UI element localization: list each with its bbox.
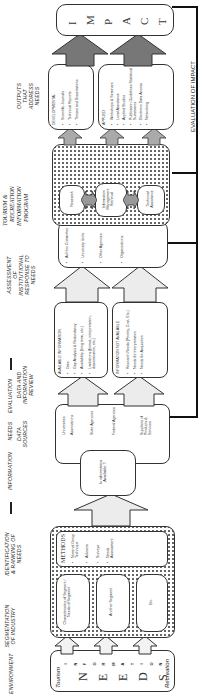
needs-big-letters: NEEDS [73,672,173,681]
feedback-line [196,8,198,418]
arrows-to-data-review [58,374,168,408]
feedback-line-to-program [172,172,197,174]
header-data-sources: DATA SOURCES [16,418,28,450]
double-arrow-2 [123,189,139,211]
impact-letters: IMPACT [63,15,171,25]
segment-box-1: Characteristics of Segment / Needs of Se… [56,574,90,632]
arrows-to-impact [50,32,170,68]
methods-box: METHODS Nominal Group Technique Advisors… [56,531,168,567]
information-vertical-letters: INFORMATION [61,659,166,669]
program-container: Research Information Management Retrieva… [52,144,170,226]
header-data-review: DATA AND INFORMATION REVIEW [16,366,34,404]
feedback-line-to-assessment [168,242,197,244]
applied-box: APPLIED Workshops & Seminars Local Assis… [98,64,174,130]
segment-box-2: Another Segment [96,574,130,632]
evaluation-of-impact-label: EVALUATION OF IMPACT [190,57,196,136]
methods-title: METHODS [60,534,66,563]
segmentation-container: Characteristics of Segment / Needs of Se… [50,526,175,638]
assessment-box: Ad Hoc Committee University Units Other … [58,220,168,268]
header-needs: NEEDS [7,416,13,446]
header-program: TOURISM & RECREATION INFORMATION PROGRAM [2,176,30,226]
header-dash-right [10,358,12,370]
developmental-box: DEVELOPMENTAL Scientific Journals Techni… [48,64,94,130]
segment-box-3: Etc. [136,574,168,632]
arrow-to-decision [72,492,150,528]
header-assessment: ASSESSMENT OF INSTITUTIONAL RESPONSE TO … [6,252,36,298]
header-environment: ENVIRONMENT [8,656,14,694]
header-segmentation: SEGMENTATION OF INDUSTRY [4,604,16,648]
header-information: INFORMATION [7,446,13,496]
feedback-line-right [172,6,198,8]
decision-box: Is information Available ? [80,450,136,496]
information-not-available-box: INFORMATION NOT AVAILABLE Research Needs… [112,302,168,378]
double-arrow-1 [81,189,97,211]
header-identification: IDENTIFICATION & RANKING OF NEEDS [4,530,22,578]
header-evaluation: EVALUATION [7,376,13,416]
diagram-canvas: ENVIRONMENT SEGMENTATION OF INDUSTRY IDE… [0,0,217,696]
header-dash-left [10,502,12,514]
available-information-box: AVAILABLE INFORMATION Data Gap Analysis … [54,302,108,378]
methods-list: Nominal Group Technique Advisors Surveys… [71,533,117,563]
tourism-label: Tourism [55,667,61,688]
program-technical-assistance-box: Technical Assistance [137,185,165,215]
impact-box: IMPACT [56,4,174,36]
arrows-to-assessment [54,264,168,304]
header-outputs: OUTPUTS THAT ADDRESS NEEDS [16,76,40,116]
environment-box: Tourism Recreation INFORMATION NEEDS [50,650,175,692]
feedback-line-to-data-sources [170,416,197,418]
